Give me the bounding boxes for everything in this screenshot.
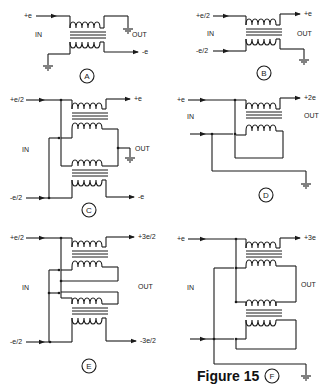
svg-text:+e: +e [304, 10, 312, 17]
panel-e: +e/2 +3e/2 [10, 233, 156, 373]
in-label: IN [22, 146, 29, 153]
panel-tag: D [263, 191, 269, 200]
out-label: OUT [301, 281, 317, 288]
svg-text:+e/2: +e/2 [10, 234, 24, 241]
in-label: IN [187, 113, 194, 120]
panel-tag: A [84, 72, 90, 81]
svg-text:+e: +e [134, 95, 142, 102]
figure-caption: Figure 15 [197, 368, 259, 384]
svg-text:+e/2: +e/2 [196, 12, 210, 19]
svg-text:+3e/2: +3e/2 [138, 233, 156, 240]
in-label: IN [35, 31, 42, 38]
panel-tag: F [270, 372, 275, 381]
svg-text:+e: +e [177, 235, 185, 242]
in-label: IN [187, 284, 194, 291]
terminal-label: +e [24, 12, 32, 19]
schematic-diagram: +e -e IN OUT A +e/2 +e [0, 0, 327, 390]
panel-d: +e +2e IN OUT D [177, 94, 320, 202]
svg-text:-e/2: -e/2 [10, 194, 22, 201]
in-label: IN [207, 30, 214, 37]
svg-text:+e: +e [177, 96, 185, 103]
svg-text:-e/2: -e/2 [10, 338, 22, 345]
svg-text:-e/2: -e/2 [196, 47, 208, 54]
svg-text:+3e: +3e [304, 234, 316, 241]
panel-b: +e/2 +e -e/2 IN OUT B [196, 10, 313, 80]
svg-text:-e: -e [142, 48, 148, 55]
out-label: OUT [138, 283, 154, 290]
svg-text:+2e: +2e [304, 94, 316, 101]
in-label: IN [22, 284, 29, 291]
out-label: OUT [304, 112, 320, 119]
out-label: OUT [297, 30, 313, 37]
panel-c: +e/2 +e -e/2 [10, 95, 151, 217]
panel-f: +e +3e [177, 234, 317, 383]
svg-text:-e: -e [138, 193, 144, 200]
svg-text:-3e/2: -3e/2 [140, 337, 156, 344]
out-label: OUT [135, 145, 151, 152]
svg-text:+e/2: +e/2 [10, 96, 24, 103]
out-label: OUT [132, 31, 148, 38]
panel-a: +e -e IN OUT A [24, 12, 148, 83]
panel-tag: E [86, 362, 91, 371]
panel-tag: C [86, 206, 92, 215]
panel-tag: B [261, 69, 266, 78]
